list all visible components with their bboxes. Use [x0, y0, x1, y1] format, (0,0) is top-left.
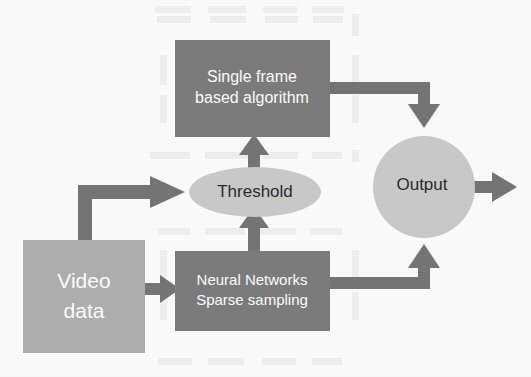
watermark-smudge — [352, 292, 359, 320]
neural-networks-label-line1: Neural Networks — [197, 271, 308, 288]
edge-neural-networks-to-output — [326, 244, 440, 289]
watermark-smudge — [150, 152, 190, 159]
watermark-smudge — [205, 228, 245, 235]
watermark-smudge — [158, 228, 190, 235]
straight-arrow-right — [470, 172, 517, 202]
edge-single-frame-to-output — [326, 82, 440, 128]
watermark-smudge — [208, 6, 246, 13]
watermark-smudge — [160, 95, 167, 123]
watermark-smudge — [352, 95, 359, 123]
watermark-smudge — [312, 358, 342, 365]
watermark-smudge — [352, 55, 359, 85]
video-data-label-line1: Video — [57, 269, 110, 292]
single-frame-label-line1: Single frame — [207, 68, 297, 85]
threshold-label: Threshold — [217, 182, 293, 201]
video-data-label-line2: data — [64, 299, 105, 322]
watermark-smudge — [208, 358, 244, 365]
watermark-smudge — [155, 6, 191, 13]
elbow-arrow-right-down — [326, 82, 440, 128]
diagram-canvas: Single frame based algorithm Threshold V… — [0, 0, 531, 377]
watermark-smudge — [310, 228, 342, 235]
output-label: Output — [396, 175, 447, 194]
edge-video-data-to-neural-networks — [145, 275, 180, 303]
node-single-frame-based-algorithm[interactable]: Single frame based algorithm — [175, 40, 330, 137]
node-threshold[interactable]: Threshold — [189, 167, 321, 217]
elbow-arrow-right-up — [326, 244, 440, 289]
watermark-smudge — [352, 250, 359, 280]
watermark-smudge — [313, 16, 343, 23]
watermark-smudge — [260, 228, 296, 235]
node-video-data[interactable]: Video data — [23, 240, 145, 353]
watermark-smudge — [262, 358, 296, 365]
watermark-smudge — [160, 55, 167, 85]
watermark-smudge — [352, 14, 359, 36]
watermark-smudge — [263, 6, 297, 13]
neural-networks-label-line2: Sparse sampling — [196, 291, 308, 308]
watermark-smudge — [312, 152, 342, 159]
edge-output-exit — [470, 172, 517, 202]
diagram-svg: Single frame based algorithm Threshold V… — [0, 0, 531, 377]
single-frame-label-line2: based algorithm — [195, 89, 309, 106]
watermark-smudge — [265, 16, 298, 23]
watermark-smudge — [312, 6, 344, 13]
watermark-smudge — [210, 16, 246, 23]
watermark-smudge — [352, 150, 359, 162]
node-output[interactable]: Output — [373, 136, 475, 238]
watermark-smudge — [157, 16, 191, 23]
watermark-smudge — [160, 250, 167, 280]
watermark-smudge — [158, 358, 192, 365]
node-neural-networks-sparse-sampling[interactable]: Neural Networks Sparse sampling — [175, 251, 330, 331]
straight-arrow-right — [145, 275, 180, 303]
video-data-box[interactable] — [23, 240, 145, 353]
